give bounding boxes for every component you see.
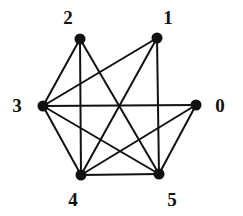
node-label-1: 1 [163, 8, 173, 27]
graph-node-2 [75, 34, 86, 45]
node-label-2: 2 [63, 8, 73, 27]
node-label-0: 0 [215, 96, 225, 115]
graph-node-5 [154, 169, 165, 180]
graph-node-1 [152, 33, 163, 44]
graph-edge-2-4 [80, 39, 81, 175]
graph-node-3 [38, 101, 49, 112]
graph-edge-1-5 [157, 38, 159, 174]
graph-node-4 [76, 170, 87, 181]
node-label-3: 3 [12, 96, 22, 115]
node-label-4: 4 [68, 190, 78, 209]
graph-edge-4-5 [81, 174, 159, 175]
edge-layer [43, 38, 196, 175]
graph-canvas [0, 0, 243, 216]
node-label-5: 5 [167, 190, 177, 209]
graph-node-0 [191, 100, 202, 111]
graph-figure: 012345 [0, 0, 243, 216]
